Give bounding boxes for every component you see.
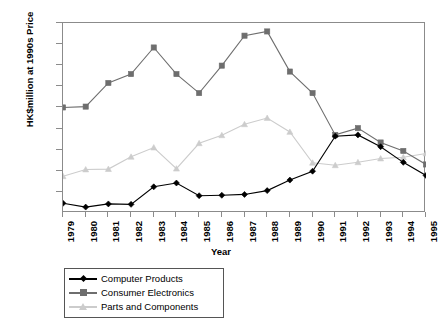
data-point [83, 104, 88, 109]
x-axis-tick-label: 1983 [157, 221, 167, 242]
data-point [242, 191, 248, 197]
data-point [310, 90, 315, 95]
data-point [83, 204, 89, 210]
legend-label: Computer Products [101, 274, 183, 284]
data-point [106, 80, 111, 85]
data-point [63, 200, 66, 206]
legend-key-parts-and-components [69, 301, 97, 313]
legend-label: Parts and Components [101, 302, 198, 312]
data-point [197, 90, 202, 95]
legend-marker [80, 289, 87, 296]
series-consumer-electronics [63, 29, 426, 167]
x-axis-tick-label: 1994 [406, 221, 416, 242]
x-axis-tick-label: 1981 [111, 221, 121, 242]
x-axis-tick-label: 1995 [429, 221, 439, 242]
data-point [264, 115, 270, 120]
series-canvas [63, 23, 426, 213]
data-point [63, 105, 66, 110]
data-point [173, 180, 179, 186]
x-axis-tick-label: 1985 [202, 221, 212, 242]
data-point [265, 29, 270, 34]
x-axis-tick-label: 1987 [248, 221, 258, 242]
data-point [401, 148, 406, 153]
x-axis-tick-label: 1982 [134, 221, 144, 242]
x-axis-tick-label: 1988 [270, 221, 280, 242]
data-point [219, 132, 225, 137]
chart-legend: Computer Products Consumer Electronics P… [64, 268, 224, 318]
data-point [355, 132, 361, 138]
data-point [174, 71, 179, 76]
x-axis-tick-label: 1989 [293, 221, 303, 242]
data-point [355, 126, 360, 131]
legend-item: Consumer Electronics [69, 286, 218, 300]
data-point [423, 150, 426, 155]
legend-marker [79, 303, 87, 310]
data-point [287, 69, 292, 74]
chart-figure: HK$million at 1990s Price 05000100001500… [0, 0, 442, 327]
x-axis-tick-label: 1986 [225, 221, 235, 242]
legend-marker [80, 275, 87, 282]
x-axis-tick-label: 1993 [384, 221, 394, 242]
data-point [219, 63, 224, 68]
data-point [423, 162, 426, 167]
series-line [63, 31, 426, 164]
x-axis-tick-label: 1984 [179, 221, 189, 242]
data-point [151, 145, 157, 150]
x-axis-tick-label: 1979 [66, 221, 76, 242]
legend-item: Computer Products [69, 272, 218, 286]
data-point [287, 177, 293, 183]
data-point [219, 192, 225, 198]
plot-area [62, 22, 425, 212]
data-point [105, 201, 111, 207]
x-axis-tick-label: 1990 [316, 221, 326, 242]
y-axis-title: HK$million at 1990s Price [24, 0, 35, 165]
data-point [310, 168, 316, 174]
series-computer-products [63, 132, 426, 210]
x-axis-tick-label: 1991 [338, 221, 348, 242]
legend-label: Consumer Electronics [101, 288, 194, 298]
series-parts-and-components [63, 115, 426, 179]
legend-key-consumer-electronics [69, 287, 97, 299]
data-point [287, 129, 293, 134]
legend-key-computer-products [69, 273, 97, 285]
data-point [264, 188, 270, 194]
data-point [242, 33, 247, 38]
x-axis-tick-label: 1980 [89, 221, 99, 242]
data-point [128, 71, 133, 76]
x-axis-tick-label: 1992 [361, 221, 371, 242]
x-axis-title: Year [0, 246, 442, 257]
legend-item: Parts and Components [69, 300, 218, 314]
data-point [196, 193, 202, 199]
data-point [151, 45, 156, 50]
